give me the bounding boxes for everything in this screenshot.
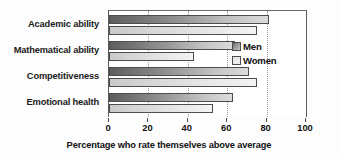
tick-label-20: 20 [127,122,167,133]
legend: Men Women [232,40,300,68]
category-label: Mathematical ability [0,45,99,55]
bar-men-emotional-health[interactable] [109,93,233,103]
legend-item-men[interactable]: Men [232,40,300,53]
category-label: Emotional health [0,97,99,107]
tick-label-0: 0 [88,122,128,133]
tick-label-100: 100 [285,122,325,133]
x-axis-ticks: 0 20 40 60 80 100 [0,118,338,132]
bar-group-emotional-health [109,89,306,115]
tick-label-80: 80 [246,122,286,133]
legend-item-women[interactable]: Women [232,54,300,67]
bar-women-competitiveness[interactable] [109,78,257,88]
category-label: Competitiveness [0,71,99,81]
category-axis-labels: Academic ability Mathematical ability Co… [0,11,103,115]
legend-label-men: Men [243,42,262,52]
legend-swatch-icon-women [232,56,241,65]
legend-label-women: Women [243,56,276,66]
bar-group-academic-ability [109,11,306,37]
bar-chart: Academic ability Mathematical ability Co… [0,0,338,159]
bar-men-mathematical-ability[interactable] [109,41,235,51]
tick-label-60: 60 [206,122,246,133]
bar-women-emotional-health[interactable] [109,104,213,114]
bar-men-academic-ability[interactable] [109,15,269,25]
tick-label-40: 40 [167,122,207,133]
legend-swatch-icon-men [232,42,241,51]
bar-men-competitiveness[interactable] [109,67,249,77]
bar-women-mathematical-ability[interactable] [109,52,194,62]
x-axis-title: Percentage who rate themselves above ave… [0,140,338,150]
bar-women-academic-ability[interactable] [109,26,257,36]
category-label: Academic ability [0,19,99,29]
